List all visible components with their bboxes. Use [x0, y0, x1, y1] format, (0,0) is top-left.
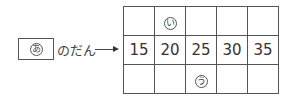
grid-cell: [248, 7, 279, 36]
label-box: あ: [18, 38, 54, 60]
right-arrow-icon: [95, 49, 117, 50]
circled-marker-u: う: [195, 75, 208, 88]
grid-cell: [186, 7, 217, 36]
grid-cell: [217, 65, 248, 94]
grid-cell: 35: [248, 36, 279, 65]
grid-cell: い: [155, 7, 186, 36]
grid-cell: 15: [124, 36, 155, 65]
grid-cell: 20: [155, 36, 186, 65]
row-label-text: のだん: [57, 40, 96, 59]
grid-cell: う: [186, 65, 217, 94]
grid-cell: [248, 65, 279, 94]
grid-cell: [124, 65, 155, 94]
grid-cell: 25: [186, 36, 217, 65]
number-grid: い 15 20 25 30 35 う: [123, 6, 279, 94]
circled-marker-i: い: [164, 17, 177, 30]
grid-row-top: い: [124, 7, 279, 36]
grid-cell: 30: [217, 36, 248, 65]
grid-row-middle: 15 20 25 30 35: [124, 36, 279, 65]
grid-cell: [124, 7, 155, 36]
grid-cell: [155, 65, 186, 94]
grid-cell: [217, 7, 248, 36]
circled-marker-a: あ: [30, 43, 43, 56]
grid-row-bottom: う: [124, 65, 279, 94]
